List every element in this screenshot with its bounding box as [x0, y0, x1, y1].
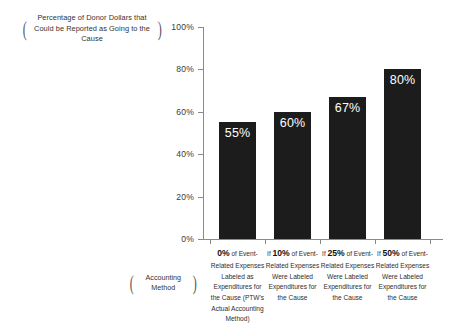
x-axis-category-label: 0% of Event-Related Expenses Labeled as …: [209, 247, 267, 325]
bar[interactable]: 67%: [329, 97, 366, 239]
bracket-open-icon: (: [22, 18, 26, 40]
y-axis-tick-label: 20%: [176, 192, 194, 202]
bar[interactable]: 80%: [384, 69, 421, 239]
bar-value-label: 60%: [274, 116, 311, 130]
bracket-close-icon: ): [193, 272, 197, 294]
x-axis-tick: [430, 239, 431, 244]
bar-value-label: 67%: [329, 101, 366, 115]
bracket-open-icon: (: [130, 272, 134, 294]
x-axis-tick: [320, 239, 321, 244]
bar-slot: 67%: [329, 27, 366, 239]
x-axis-category-label: If 50% of Event-Related Expenses Were La…: [374, 247, 432, 304]
bar-slot: 80%: [384, 27, 421, 239]
x-axis-title-label: Accounting Method: [135, 273, 191, 294]
x-axis-tick: [265, 239, 266, 244]
bracket-close-icon: ): [158, 18, 162, 40]
bar-slot: 60%: [274, 27, 311, 239]
y-axis-title-label: Percentage of Donor Dollars that Could b…: [28, 13, 156, 45]
x-axis-tick: [375, 239, 376, 244]
bar-value-label: 80%: [384, 73, 421, 87]
y-axis-title: ( Percentage of Donor Dollars that Could…: [12, 13, 172, 45]
x-axis-tick: [210, 239, 211, 244]
x-axis-category-label: If 25% of Event-Related Expenses Were La…: [319, 247, 377, 304]
bar-value-label: 55%: [219, 126, 256, 140]
y-axis-tick-label: 0%: [181, 234, 194, 244]
x-axis-category-label: If 10% of Event-Related Expenses Were La…: [264, 247, 322, 304]
y-axis-tick-label: 60%: [176, 107, 194, 117]
y-axis-tick-label: 40%: [176, 149, 194, 159]
bar[interactable]: 55%: [219, 122, 256, 239]
bar[interactable]: 60%: [274, 112, 311, 239]
y-axis-tick-label: 80%: [176, 64, 194, 74]
bars-layer: 55%60%67%80%: [203, 27, 443, 239]
x-axis-title: ( Accounting Method ): [128, 272, 199, 294]
y-axis-tick-label: 100%: [171, 22, 194, 32]
bar-slot: 55%: [219, 27, 256, 239]
